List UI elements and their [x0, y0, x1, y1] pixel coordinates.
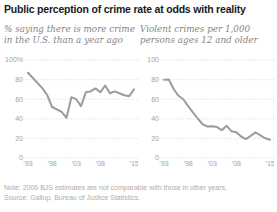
note-text: Note: 2006 BJS estimates are not compara…: [4, 183, 274, 193]
crime-chart-card: Public perception of crime rate at odds …: [0, 0, 277, 212]
page-title: Public perception of crime rate at odds …: [4, 3, 274, 16]
bjs-violent-crime-trend-line: [164, 80, 270, 140]
x-tick-label: ’98: [183, 160, 192, 167]
gallup-perception-svg: 100%806040200’93’98’03’08’15: [4, 54, 138, 169]
x-tick-label: ’08: [96, 160, 105, 167]
gallup-subtitle-line2: in the U.S. than a year ago: [4, 35, 123, 45]
y-tick-label: 80: [15, 76, 23, 83]
gallup-subtitle: % saying there is more crime in the U.S.…: [4, 24, 138, 46]
y-tick-label: 60: [151, 96, 159, 103]
y-tick-label: 100: [147, 56, 159, 63]
y-tick-label: 40: [151, 115, 159, 122]
bjs-subtitle-line2: persons ages 12 and older: [140, 35, 258, 45]
footnotes: Note: 2006 BJS estimates are not compara…: [4, 183, 274, 202]
bjs-subtitle: Violent crimes per 1,000 persons ages 12…: [140, 24, 274, 46]
y-tick-label: 20: [15, 135, 23, 142]
bjs-chart: 100806040200’93’98’03’08’15: [140, 54, 274, 169]
bjs-panel: Violent crimes per 1,000 persons ages 12…: [140, 24, 274, 169]
x-tick-label: ’98: [47, 160, 56, 167]
y-tick-label: 80: [151, 76, 159, 83]
source-text: Source: Gallup, Bureau of Justice Statis…: [4, 193, 274, 203]
x-tick-label: ’93: [23, 160, 32, 167]
y-tick-label: 20: [151, 135, 159, 142]
gallup-panel: % saying there is more crime in the U.S.…: [4, 24, 138, 169]
x-tick-label: ’08: [232, 160, 241, 167]
x-tick-label: ’15: [129, 160, 138, 167]
x-tick-label: ’03: [208, 160, 217, 167]
x-tick-label: ’15: [265, 160, 274, 167]
y-tick-label: 60: [15, 96, 23, 103]
charts-row: % saying there is more crime in the U.S.…: [4, 24, 274, 169]
bjs-subtitle-line1: Violent crimes per 1,000: [140, 24, 250, 34]
y-tick-label: 40: [15, 115, 23, 122]
y-tick-label: 100%: [5, 56, 23, 63]
gallup-subtitle-line1: % saying there is more crime: [4, 24, 135, 34]
bjs-violent-crime-svg: 100806040200’93’98’03’08’15: [140, 54, 274, 169]
x-tick-label: ’03: [72, 160, 81, 167]
gallup-chart: 100%806040200’93’98’03’08’15: [4, 54, 138, 169]
x-tick-label: ’93: [159, 160, 168, 167]
